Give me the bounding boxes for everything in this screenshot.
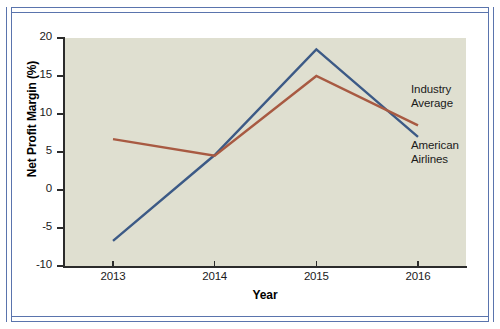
- x-axis-tick: [417, 261, 419, 267]
- y-axis-line: [63, 37, 65, 267]
- y-axis-tick: [57, 37, 63, 39]
- x-axis-title: Year: [64, 288, 466, 302]
- y-axis-tick: [57, 227, 63, 229]
- line-industry-average: [113, 76, 418, 156]
- series-label-american-airlines: American Airlines: [411, 138, 491, 166]
- figure-frame-top: [6, 7, 494, 13]
- y-axis-tick: [57, 265, 63, 267]
- y-axis-title: Net Profit Margin (%): [25, 24, 39, 214]
- plot-area: [64, 38, 466, 266]
- figure-frame-bottom: [6, 316, 494, 322]
- x-axis-line: [63, 266, 467, 268]
- x-axis-tick-label: 2014: [185, 270, 245, 282]
- series-lines: [64, 38, 466, 266]
- x-axis-tick-label: 2016: [388, 270, 448, 282]
- y-axis-tick: [57, 113, 63, 115]
- y-axis-tick: [57, 189, 63, 191]
- x-axis-tick: [316, 261, 318, 267]
- figure-frame-left: [6, 7, 12, 322]
- x-axis-tick: [214, 261, 216, 267]
- chart-figure: -10-505101520 2013201420152016 Net Profi…: [0, 0, 500, 329]
- series-label-industry-average: Industry Average: [411, 82, 491, 110]
- y-axis-tick: [57, 151, 63, 153]
- line-american-airlines: [113, 49, 418, 241]
- y-axis-tick: [57, 75, 63, 77]
- y-axis-tick-label: -5: [12, 220, 52, 232]
- y-axis-tick-label: -10: [12, 258, 52, 270]
- x-axis-tick-label: 2015: [286, 270, 346, 282]
- x-axis-tick: [112, 261, 114, 267]
- x-axis-tick-label: 2013: [83, 270, 143, 282]
